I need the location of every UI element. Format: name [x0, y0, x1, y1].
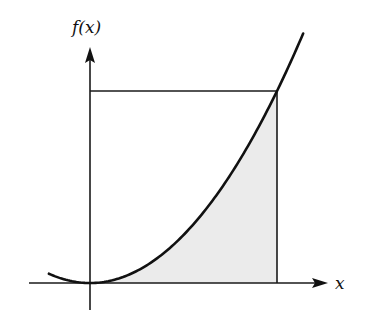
shaded-area-under-curve: [90, 91, 277, 283]
x-axis-label: x: [335, 273, 345, 293]
diagram-canvas: f(x) x: [0, 0, 365, 326]
y-axis-label: f(x): [70, 17, 101, 37]
